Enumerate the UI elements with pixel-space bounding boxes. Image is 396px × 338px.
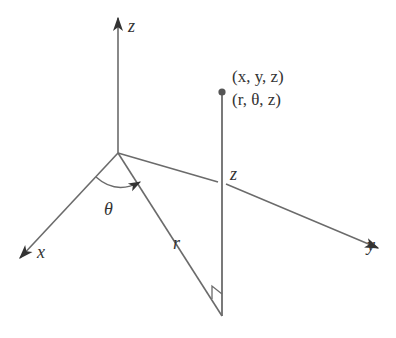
r-segment [118,153,222,316]
z-axis-label: z [128,17,135,35]
cylindrical-coordinates-diagram: z x y (x, y, z) (r, θ, z) θ r z [0,0,396,338]
height-z-label: z [230,165,237,183]
cartesian-coordinates-label: (x, y, z) [232,68,284,85]
x-axis-label: x [37,243,45,261]
right-angle-marker [212,286,222,299]
diagram-drawing [0,0,396,338]
cylindrical-coordinates-label: (r, θ, z) [232,91,281,108]
y-axis-label: y [367,236,375,254]
y-axis-continued [226,184,378,248]
point-marker [218,88,225,95]
r-label: r [173,234,180,252]
theta-label: θ [104,200,113,218]
